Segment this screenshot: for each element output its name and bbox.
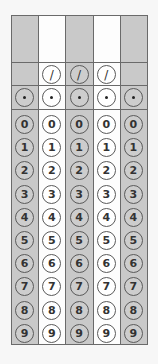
grid-in-answer-grid: 0123456789/0123456789/0123456789/0123456… [11, 15, 148, 345]
digit-bubble-8[interactable]: 8 [42, 301, 61, 320]
digit-bubble-0[interactable]: 0 [42, 115, 61, 134]
fraction-bar-row [121, 63, 147, 86]
answer-column-4: /0123456789 [94, 16, 121, 344]
digit-bubble-2[interactable]: 2 [42, 161, 61, 180]
digit-bubble-9[interactable]: 9 [97, 324, 116, 343]
decimal-point-bubble[interactable] [124, 88, 143, 107]
decimal-point-row [66, 86, 92, 110]
fraction-bar-row: / [39, 63, 65, 86]
fraction-bar-row: / [66, 63, 92, 86]
digit-bubbles: 0123456789 [66, 111, 92, 344]
decimal-dot-icon [78, 96, 81, 99]
decimal-dot-icon [132, 96, 135, 99]
decimal-dot-icon [50, 96, 53, 99]
entry-box[interactable] [66, 16, 92, 63]
digit-bubble-6[interactable]: 6 [70, 254, 89, 273]
digit-bubble-3[interactable]: 3 [15, 185, 34, 204]
digit-bubble-1[interactable]: 1 [42, 138, 61, 157]
digit-bubble-4[interactable]: 4 [97, 208, 116, 227]
digit-bubble-2[interactable]: 2 [70, 161, 89, 180]
entry-box[interactable] [121, 16, 147, 63]
digit-bubble-1[interactable]: 1 [97, 138, 116, 157]
digit-bubble-1[interactable]: 1 [124, 138, 143, 157]
digit-bubble-9[interactable]: 9 [70, 324, 89, 343]
digit-bubble-7[interactable]: 7 [70, 277, 89, 296]
digit-bubble-9[interactable]: 9 [124, 324, 143, 343]
digit-bubble-4[interactable]: 4 [124, 208, 143, 227]
digit-bubble-9[interactable]: 9 [42, 324, 61, 343]
decimal-point-row [12, 86, 38, 110]
digit-bubble-0[interactable]: 0 [124, 115, 143, 134]
decimal-dot-icon [23, 96, 26, 99]
digit-bubble-2[interactable]: 2 [124, 161, 143, 180]
decimal-point-bubble[interactable] [70, 88, 89, 107]
digit-bubble-4[interactable]: 4 [70, 208, 89, 227]
digit-bubble-6[interactable]: 6 [15, 254, 34, 273]
digit-bubble-3[interactable]: 3 [124, 185, 143, 204]
digit-bubble-1[interactable]: 1 [15, 138, 34, 157]
fraction-slash-bubble[interactable]: / [42, 65, 61, 84]
digit-bubble-0[interactable]: 0 [97, 115, 116, 134]
decimal-point-bubble[interactable] [42, 88, 61, 107]
digit-bubble-5[interactable]: 5 [124, 231, 143, 250]
digit-bubble-5[interactable]: 5 [15, 231, 34, 250]
digit-bubble-8[interactable]: 8 [124, 301, 143, 320]
decimal-dot-icon [105, 96, 108, 99]
digit-bubbles: 0123456789 [12, 111, 38, 344]
decimal-point-bubble[interactable] [97, 88, 116, 107]
digit-bubble-5[interactable]: 5 [70, 231, 89, 250]
fraction-bar-row [12, 63, 38, 86]
decimal-point-bubble[interactable] [15, 88, 34, 107]
digit-bubble-8[interactable]: 8 [97, 301, 116, 320]
answer-column-5: 0123456789 [121, 16, 147, 344]
digit-bubble-2[interactable]: 2 [15, 161, 34, 180]
fraction-bar-row: / [94, 63, 120, 86]
digit-bubble-7[interactable]: 7 [124, 277, 143, 296]
answer-column-3: /0123456789 [66, 16, 93, 344]
digit-bubble-1[interactable]: 1 [70, 138, 89, 157]
digit-bubble-2[interactable]: 2 [97, 161, 116, 180]
decimal-point-row [94, 86, 120, 110]
digit-bubble-7[interactable]: 7 [97, 277, 116, 296]
digit-bubble-3[interactable]: 3 [97, 185, 116, 204]
digit-bubble-0[interactable]: 0 [70, 115, 89, 134]
digit-bubble-4[interactable]: 4 [42, 208, 61, 227]
entry-box[interactable] [94, 16, 120, 63]
digit-bubble-3[interactable]: 3 [70, 185, 89, 204]
decimal-point-row [121, 86, 147, 110]
digit-bubbles: 0123456789 [39, 111, 65, 344]
fraction-slash-bubble[interactable]: / [97, 65, 116, 84]
digit-bubble-8[interactable]: 8 [15, 301, 34, 320]
digit-bubble-4[interactable]: 4 [15, 208, 34, 227]
digit-bubble-0[interactable]: 0 [15, 115, 34, 134]
answer-column-2: /0123456789 [39, 16, 66, 344]
digit-bubble-9[interactable]: 9 [15, 324, 34, 343]
digit-bubble-7[interactable]: 7 [15, 277, 34, 296]
digit-bubble-6[interactable]: 6 [124, 254, 143, 273]
digit-bubbles: 0123456789 [94, 111, 120, 344]
digit-bubble-7[interactable]: 7 [42, 277, 61, 296]
answer-column-1: 0123456789 [12, 16, 39, 344]
entry-box[interactable] [12, 16, 38, 63]
digit-bubble-6[interactable]: 6 [97, 254, 116, 273]
decimal-point-row [39, 86, 65, 110]
digit-bubble-8[interactable]: 8 [70, 301, 89, 320]
digit-bubble-5[interactable]: 5 [97, 231, 116, 250]
entry-box[interactable] [39, 16, 65, 63]
digit-bubble-6[interactable]: 6 [42, 254, 61, 273]
digit-bubble-5[interactable]: 5 [42, 231, 61, 250]
fraction-slash-bubble[interactable]: / [70, 65, 89, 84]
digit-bubbles: 0123456789 [121, 111, 147, 344]
digit-bubble-3[interactable]: 3 [42, 185, 61, 204]
